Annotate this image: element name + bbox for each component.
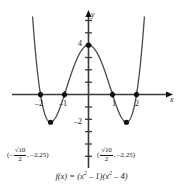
curve-point-marker: [124, 120, 129, 125]
formula-factor-a-tail: – 1): [87, 171, 103, 181]
x-tick-label-neg1: –1: [59, 100, 67, 108]
left-annotation-tail: , –2.25): [27, 152, 49, 159]
left-annotation-fraction: √10 2: [14, 147, 26, 163]
y-axis-label: y: [91, 11, 95, 19]
right-annotation-open: (: [97, 152, 99, 159]
curve-point-marker: [134, 92, 139, 97]
formula-fx: f(x): [55, 171, 67, 181]
x-tick-label-1: 1: [112, 100, 116, 108]
function-formula-caption: f(x) = (x2 – 1)(x2 – 4): [0, 170, 183, 181]
x-tick-label-2: 2: [135, 100, 139, 108]
formula-equals: =: [69, 171, 75, 181]
curve-point-marker: [110, 92, 115, 97]
curve-point-marker: [48, 120, 53, 125]
x-tick-label-neg2: –2: [35, 100, 43, 108]
graph-figure: x y –2 –1 1 2 4 –2 (– √10 2 , –2.25) ( √…: [0, 0, 183, 187]
formula-factor-a-base: (x: [77, 171, 84, 181]
left-annotation-denominator: 2: [18, 156, 22, 164]
right-annotation-denominator: 2: [105, 156, 109, 164]
left-minimum-annotation: (– √10 2 , –2.25): [7, 147, 49, 163]
x-axis: [12, 91, 173, 97]
formula-factor-b-base: (x: [102, 171, 109, 181]
curve-point-marker: [86, 43, 91, 48]
left-annotation-open: (–: [7, 152, 13, 159]
curve-point-marker: [62, 92, 67, 97]
right-minimum-annotation: ( √10 2 , –2.25): [97, 147, 135, 163]
right-annotation-fraction: √10 2: [100, 147, 112, 163]
x-axis-label: x: [170, 96, 174, 104]
y-tick-label-neg2: –2: [74, 118, 82, 126]
right-annotation-tail: , –2.25): [114, 152, 136, 159]
formula-factor-b-tail: – 4): [112, 171, 128, 181]
y-tick-label-4: 4: [78, 40, 82, 48]
curve-point-marker: [38, 92, 43, 97]
